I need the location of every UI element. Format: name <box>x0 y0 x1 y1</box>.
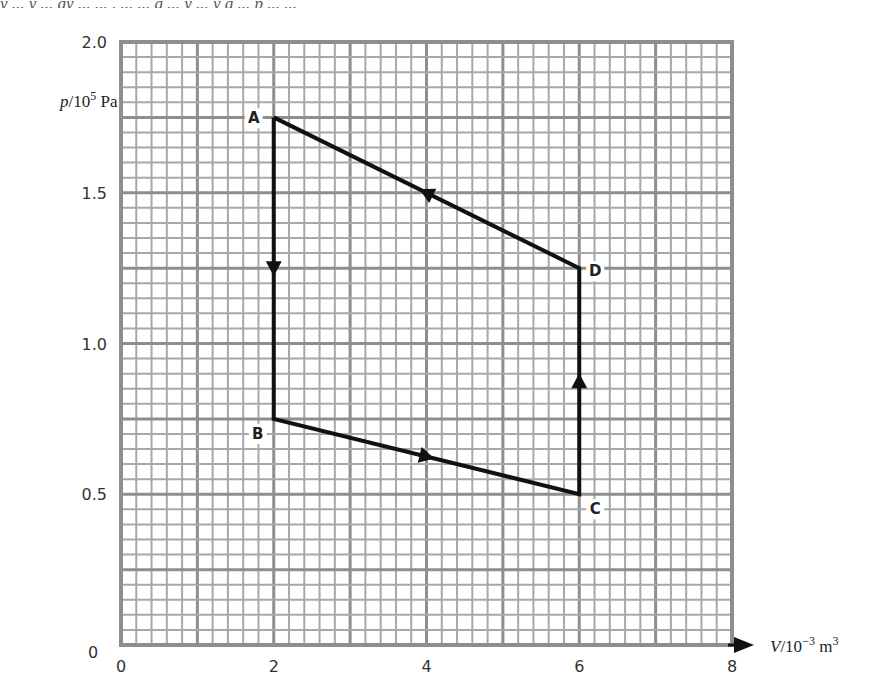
x-tick-label: 2 <box>269 657 279 676</box>
x-axis-label: V/10−3 m3 <box>770 634 838 656</box>
origin-y-label: 0 <box>88 643 98 662</box>
y-axis-label: p/105 Pa <box>59 89 118 111</box>
y-tick-label: 0.5 <box>82 485 107 504</box>
y-tick-label: 1.5 <box>82 184 107 203</box>
x-tick-label: 8 <box>727 657 737 676</box>
point-label-c: C <box>590 500 601 518</box>
point-label-a: A <box>248 109 260 127</box>
x-tick-label: 0 <box>116 657 126 676</box>
point-label-d: D <box>589 262 601 280</box>
direction-arrow-icon <box>571 373 587 388</box>
chart-grid <box>121 42 732 645</box>
tick-labels: 024680.51.01.52.0 <box>82 33 738 676</box>
x-tick-label: 4 <box>421 657 431 676</box>
pv-diagram-chart: 024680.51.01.52.0 ABCD p/105 Pa V/10−3 m… <box>0 0 874 694</box>
y-tick-label: 1.0 <box>82 335 107 354</box>
x-tick-label: 6 <box>574 657 584 676</box>
point-label-b: B <box>252 425 263 443</box>
y-tick-label: 2.0 <box>82 33 107 52</box>
